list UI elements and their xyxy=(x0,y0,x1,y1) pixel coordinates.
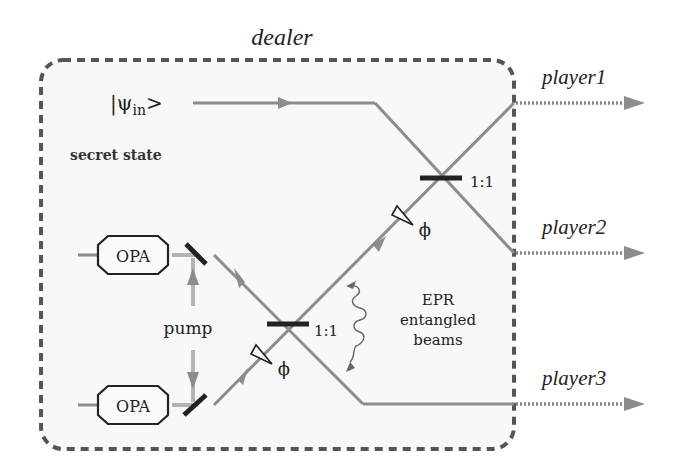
bs-top-ratio: 1:1 xyxy=(470,173,494,191)
player2-arrow-icon xyxy=(624,246,645,260)
player2-label: player2 xyxy=(540,215,607,239)
secret-state-label: secret state xyxy=(70,147,162,163)
epr-label-line1: EPR xyxy=(422,291,455,309)
player1-arrow-icon xyxy=(624,96,645,110)
phase-top-label: ϕ xyxy=(419,219,431,240)
player3-label: player3 xyxy=(540,366,606,390)
bs-bottom-ratio: 1:1 xyxy=(314,322,338,340)
opa-top-label: OPA xyxy=(116,247,150,266)
dealer-diagram: dealer |ψin> secret state OPA OPA pump 1… xyxy=(0,0,678,474)
epr-label-line3: beams xyxy=(413,331,462,349)
player1-label: player1 xyxy=(540,65,606,89)
player3-arrow-icon xyxy=(624,397,645,411)
pump-label: pump xyxy=(164,318,213,338)
epr-label-line2: entangled xyxy=(400,311,476,329)
dealer-title: dealer xyxy=(251,24,313,50)
opa-bottom-label: OPA xyxy=(116,397,150,416)
output-beams xyxy=(516,103,625,404)
phase-bottom-label: ϕ xyxy=(278,358,290,379)
